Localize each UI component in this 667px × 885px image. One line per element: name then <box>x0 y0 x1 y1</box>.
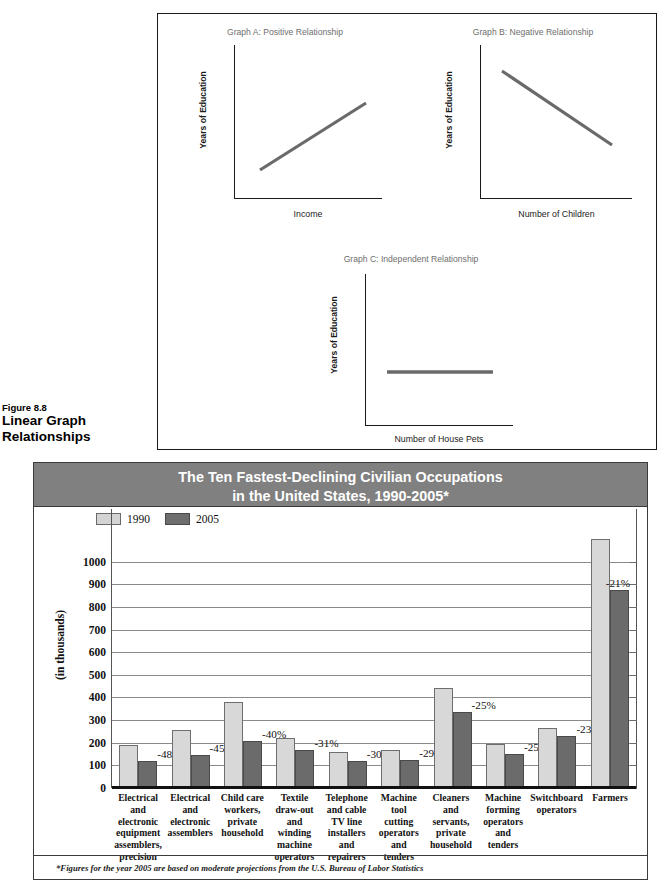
bar-1990[interactable] <box>381 750 400 788</box>
bar-2005[interactable] <box>295 750 314 788</box>
bar-1990[interactable] <box>434 688 453 788</box>
x-axis-category-line: Child care <box>217 792 267 804</box>
mini-graph-c-plot <box>365 274 513 426</box>
chart-footnote: *Figures for the year 2005 are based on … <box>34 855 647 879</box>
bar-group[interactable]: -21% <box>584 539 636 788</box>
x-axis-category-line: Farmers <box>585 792 635 804</box>
mini-graph-a-xlabel: Income <box>234 209 382 219</box>
bar-2005[interactable] <box>243 741 262 788</box>
bar-1990[interactable] <box>329 752 348 788</box>
bar-1990[interactable] <box>119 745 138 788</box>
mini-graph-a-title: Graph A: Positive Relationship <box>176 27 394 37</box>
x-axis-category-line: Cleaners <box>426 792 476 804</box>
bar-2005[interactable] <box>505 754 524 788</box>
bar-group[interactable]: -48% <box>112 539 164 788</box>
x-axis-category-line: operators <box>478 816 528 828</box>
x-axis-category-line: electronic <box>113 816 163 828</box>
mini-graph-c-title: Graph C: Independent Relationship <box>293 254 529 264</box>
x-axis-category-label: Child careworkers,privatehousehold <box>216 792 268 863</box>
x-axis-category-line: servants, <box>426 816 476 828</box>
bar-group[interactable]: -29% <box>374 539 426 788</box>
mini-graph-b-trend-line <box>480 45 632 199</box>
bar-2005[interactable] <box>400 760 419 788</box>
x-axis-category-line: machine <box>269 839 319 851</box>
bar-1990[interactable] <box>276 738 295 788</box>
x-axis-category-line: workers, <box>217 804 267 816</box>
x-axis-category-label: Machinetoolcuttingoperatorsandtenders <box>373 792 425 863</box>
plot-right-frame <box>636 509 637 788</box>
x-axis-category-line: private <box>217 816 267 828</box>
plot-wrapper: (in thousands) 0100200300400500600700800… <box>34 507 647 855</box>
mini-graph-a-plot <box>234 45 382 199</box>
figure-number: Figure 8.8 <box>2 402 154 413</box>
bar-group[interactable]: -25% <box>426 539 478 788</box>
bar-2005[interactable] <box>610 590 629 788</box>
x-axis-category-line: Machine <box>478 792 528 804</box>
x-axis-category-line: household <box>426 839 476 851</box>
x-axis-category-label: Electricalandelectronicequipmentassemble… <box>112 792 164 863</box>
x-axis-category-line: and <box>426 804 476 816</box>
x-axis-category-label: Switchboardoperators <box>529 792 584 863</box>
x-axis-category-line: TV line <box>322 816 372 828</box>
mini-graph-a: Graph A: Positive Relationship Years of … <box>176 27 394 232</box>
mini-graph-a-trend-line <box>234 45 382 199</box>
bar-group[interactable]: -45% <box>164 539 216 788</box>
x-axis-category-line: assemblers <box>165 827 215 839</box>
mini-graph-b-xlabel: Number of Children <box>474 209 639 219</box>
mini-graph-b-title: Graph B: Negative Relationship <box>422 27 644 37</box>
chart-title-bar: The Ten Fastest-Declining Civilian Occup… <box>34 463 647 507</box>
x-axis-category-line: and <box>478 827 528 839</box>
page-root: Figure 8.8 Linear Graph Relationships Gr… <box>0 0 667 885</box>
x-axis-category-label: Electricalandelectronicassemblers <box>164 792 216 863</box>
bar-1990[interactable] <box>538 728 557 788</box>
x-axis-category-line: Telephone <box>322 792 372 804</box>
mini-graph-b: Graph B: Negative Relationship Years of … <box>422 27 644 232</box>
x-axis-category-label: Machineformingoperatorsandtenders <box>477 792 529 863</box>
chart-x-axis <box>112 786 636 789</box>
y-tick-label-900: 900 <box>89 578 106 590</box>
bar-2005[interactable] <box>453 712 472 788</box>
bar-1990[interactable] <box>172 730 191 788</box>
x-axis-category-label: Cleanersandservants,privatehousehold <box>425 792 477 863</box>
chart-plot-area: 01002003004005006007008009001000 -48%-45… <box>112 539 636 788</box>
bar-group[interactable]: -25% <box>479 539 531 788</box>
chart-title-line1: The Ten Fastest-Declining Civilian Occup… <box>34 468 647 487</box>
bar-group[interactable]: -40% <box>217 539 269 788</box>
bar-1990[interactable] <box>224 702 243 788</box>
figure-title-line1: Linear Graph <box>2 413 154 429</box>
chart-x-axis-labels: Electricalandelectronicequipmentassemble… <box>112 792 636 863</box>
x-axis-category-line: and <box>322 839 372 851</box>
mini-graph-c: Graph C: Independent Relationship Years … <box>293 254 529 454</box>
y-tick-label-600: 600 <box>89 646 106 658</box>
bar-pair <box>269 539 321 788</box>
declining-occupations-chart-panel: The Ten Fastest-Declining Civilian Occup… <box>33 462 648 880</box>
mini-graph-c-trend-line <box>365 274 513 426</box>
mini-graph-b-plot <box>480 45 632 199</box>
bar-pair <box>217 539 269 788</box>
x-axis-category-line: and <box>165 804 215 816</box>
mini-graph-a-ylabel: Years of Education <box>198 65 208 155</box>
bar-2005[interactable] <box>348 761 367 788</box>
y-tick-label-700: 700 <box>89 624 106 636</box>
x-axis-category-line: and <box>113 804 163 816</box>
linear-graph-relationships-panel: Graph A: Positive Relationship Years of … <box>157 13 657 450</box>
x-axis-category-label: Textiledraw-outand windingmachineoperato… <box>268 792 320 863</box>
x-axis-category-line: equipment <box>113 827 163 839</box>
x-axis-category-line: Machine <box>374 792 424 804</box>
x-axis-category-label: Farmers <box>584 792 636 863</box>
bar-pair <box>426 539 478 788</box>
y-tick-label-200: 200 <box>89 737 106 749</box>
bar-group[interactable]: -23% <box>531 539 583 788</box>
bar-2005[interactable] <box>138 761 157 788</box>
x-axis-category-line: assemblers, <box>113 839 163 851</box>
bar-1990[interactable] <box>486 744 505 788</box>
bar-group[interactable]: -31% <box>269 539 321 788</box>
x-axis-category-line: Electrical <box>113 792 163 804</box>
bar-2005[interactable] <box>557 736 576 788</box>
x-axis-category-line: operators <box>530 804 583 816</box>
x-axis-category-line: Electrical <box>165 792 215 804</box>
bar-2005[interactable] <box>191 755 210 788</box>
bar-group[interactable]: -30% <box>322 539 374 788</box>
y-tick-label-0: 0 <box>100 782 106 794</box>
x-axis-category-line: and <box>374 839 424 851</box>
